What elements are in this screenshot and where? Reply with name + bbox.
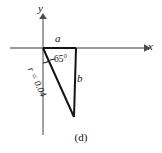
y-axis-label: y: [38, 3, 43, 14]
angle-arc-65: [43, 61, 49, 63]
figure-caption: (d): [0, 132, 162, 143]
triangle-side-b: [74, 48, 76, 117]
x-axis: [10, 44, 151, 52]
angle-label: 65°: [54, 55, 67, 65]
x-axis-label: x: [148, 41, 153, 52]
figure-container: y x a b 65° r = 0.04 (d): [0, 0, 162, 153]
side-a-label: a: [55, 33, 61, 44]
y-axis: [39, 13, 47, 135]
side-b-label: b: [77, 73, 83, 84]
